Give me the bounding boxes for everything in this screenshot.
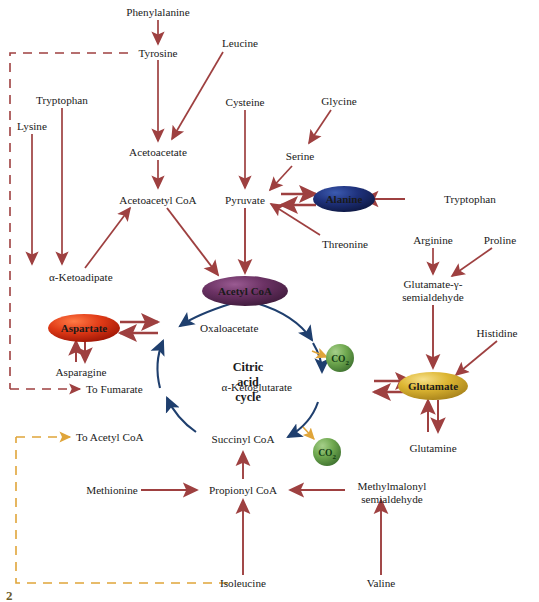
node-glutamate-semialdehyde-line2: semialdehyde [402, 291, 464, 303]
co2-bubble-1: CO2 [326, 344, 354, 372]
node-to-acetyl-coa[interactable]: To Acetyl CoA [76, 431, 144, 443]
co2-subscript-1: 2 [345, 359, 349, 367]
node-serine[interactable]: Serine [286, 150, 315, 162]
node-asparagine[interactable]: Asparagine [56, 366, 107, 378]
co2-formula-1: CO [331, 354, 345, 364]
node-methylmalonyl-line2: semialdehyde [361, 493, 423, 505]
node-acetoacetyl-coa[interactable]: Acetoacetyl CoA [119, 194, 196, 206]
node-tyrosine[interactable]: Tyrosine [139, 47, 178, 59]
co2-bubble-2: CO2 [313, 438, 341, 466]
node-isoleucine[interactable]: Isoleucine [220, 577, 266, 589]
co2-formula-2: CO [318, 448, 332, 458]
node-arginine[interactable]: Arginine [413, 234, 453, 246]
cycle-label-line1: Citric [233, 360, 264, 374]
node-alpha-ketoadipate[interactable]: α-Ketoadipate [49, 271, 113, 283]
node-tryptophan-right[interactable]: Tryptophan [444, 193, 496, 205]
node-proline[interactable]: Proline [484, 234, 516, 246]
pathway-svg: CO2 CO2 Acetyl CoA Aspartate Alanine Glu… [0, 0, 539, 602]
node-methylmalonyl-line1: Methylmalonyl [358, 480, 427, 492]
node-lysine[interactable]: Lysine [17, 120, 47, 132]
node-glutamate-semialdehyde-line1: Glutamate-γ- [404, 278, 463, 290]
node-alanine[interactable]: Alanine [313, 186, 375, 212]
cycle-label-line2: acid [237, 375, 259, 389]
node-acetoacetate[interactable]: Acetoacetate [129, 146, 187, 158]
co2-subscript-2: 2 [332, 453, 336, 461]
node-tryptophan-left[interactable]: Tryptophan [36, 94, 88, 106]
node-glutamate-gamma-semialdehyde[interactable]: Glutamate-γ- semialdehyde [402, 278, 464, 303]
node-oxaloacetate[interactable]: Oxaloacetate [200, 322, 258, 334]
amino-acid-catabolism-diagram: CO2 CO2 Acetyl CoA Aspartate Alanine Glu… [0, 0, 539, 602]
dashed-route-isoleucine-to-acetyl-coa [16, 437, 228, 583]
node-succinyl-coa[interactable]: Succinyl CoA [211, 433, 274, 445]
node-glutamate-label: Glutamate [408, 380, 458, 392]
node-phenylalanine[interactable]: Phenylalanine [126, 6, 189, 18]
node-acetyl-coa-label: Acetyl CoA [218, 285, 272, 297]
page-number: 2 [6, 588, 13, 602]
node-methionine[interactable]: Methionine [86, 484, 138, 496]
node-acetyl-coa[interactable]: Acetyl CoA [202, 276, 288, 306]
cycle-label-line3: cycle [235, 390, 261, 404]
node-glycine[interactable]: Glycine [321, 95, 356, 107]
node-leucine[interactable]: Leucine [222, 37, 258, 49]
node-alanine-label: Alanine [326, 193, 363, 205]
node-aspartate-label: Aspartate [61, 322, 108, 334]
node-to-fumarate[interactable]: To Fumarate [86, 383, 143, 395]
node-valine[interactable]: Valine [367, 577, 396, 589]
co2-arrow-group [303, 351, 327, 439]
node-propionyl-coa[interactable]: Propionyl CoA [209, 484, 277, 496]
node-aspartate[interactable]: Aspartate [48, 314, 120, 342]
node-threonine[interactable]: Threonine [322, 238, 368, 250]
node-methylmalonyl-semialdehyde[interactable]: Methylmalonyl semialdehyde [358, 480, 427, 505]
node-cysteine[interactable]: Cysteine [225, 96, 264, 108]
node-glutamine[interactable]: Glutamine [409, 442, 456, 454]
node-pyruvate[interactable]: Pyruvate [225, 194, 265, 206]
node-histidine[interactable]: Histidine [476, 327, 517, 339]
node-glutamate[interactable]: Glutamate [398, 372, 468, 400]
